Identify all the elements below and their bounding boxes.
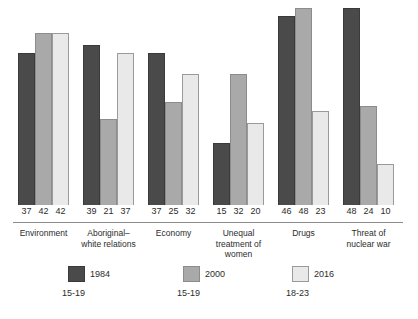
bar[interactable] xyxy=(278,16,295,205)
category-label-line: Drugs xyxy=(266,228,341,239)
bar-value-label: 21 xyxy=(100,206,117,217)
bar[interactable] xyxy=(213,143,230,205)
bar-value-label: 20 xyxy=(247,206,264,217)
category-label-line: Economy xyxy=(136,228,211,239)
bar[interactable] xyxy=(230,74,247,205)
chart-legend: 198415-19200015-19201618-23 xyxy=(0,266,418,310)
legend-year-label: 2000 xyxy=(205,269,225,280)
bar[interactable] xyxy=(377,164,394,205)
bar-group xyxy=(83,8,134,205)
bar-value-label: 25 xyxy=(165,206,182,217)
category-label-line: white relations xyxy=(71,239,146,250)
bar-value-label: 42 xyxy=(35,206,52,217)
bar-value-label: 37 xyxy=(18,206,35,217)
plot-area xyxy=(13,8,405,205)
value-label-group: 372532 xyxy=(148,206,199,217)
bar[interactable] xyxy=(35,33,52,205)
bar-value-label: 42 xyxy=(52,206,69,217)
bar-group xyxy=(18,8,69,205)
bar-value-label: 10 xyxy=(377,206,394,217)
legend-age-range-label: 15-19 xyxy=(177,288,200,299)
value-label-group: 482410 xyxy=(343,206,394,217)
category-label-line: Aboriginal– xyxy=(71,228,146,239)
bar-group xyxy=(278,8,329,205)
bar-value-label: 15 xyxy=(213,206,230,217)
bar[interactable] xyxy=(100,119,117,205)
legend-age-range-label: 18-23 xyxy=(286,288,309,299)
bar[interactable] xyxy=(343,8,360,205)
bar-value-label: 37 xyxy=(148,206,165,217)
bar-value-label: 46 xyxy=(278,206,295,217)
value-label-group: 153220 xyxy=(213,206,264,217)
value-label-row: 374242392137372532153220464823482410 xyxy=(13,206,405,220)
bar-value-label: 32 xyxy=(230,206,247,217)
bar[interactable] xyxy=(247,123,264,205)
category-label-line: Threat of xyxy=(331,228,406,239)
category-label: Environment xyxy=(6,228,81,239)
category-label-line: Environment xyxy=(6,228,81,239)
category-label-line: Unequal xyxy=(201,228,276,239)
value-label-group: 374242 xyxy=(18,206,69,217)
bar[interactable] xyxy=(360,106,377,205)
bar[interactable] xyxy=(52,33,69,205)
bar-value-label: 48 xyxy=(343,206,360,217)
category-label: Economy xyxy=(136,228,211,239)
category-label: Drugs xyxy=(266,228,341,239)
bar[interactable] xyxy=(182,74,199,205)
legend-swatch xyxy=(183,266,200,282)
bar[interactable] xyxy=(83,45,100,205)
bar-chart: 374242392137372532153220464823482410 Env… xyxy=(0,0,418,319)
bar-group xyxy=(213,8,264,205)
value-label-group: 392137 xyxy=(83,206,134,217)
category-label-line: women xyxy=(201,249,276,260)
category-label-line: nuclear war xyxy=(331,239,406,250)
x-axis-line xyxy=(13,222,403,223)
category-label: Unequaltreatment ofwomen xyxy=(201,228,276,260)
legend-swatch xyxy=(292,266,309,282)
category-label: Aboriginal–white relations xyxy=(71,228,146,249)
bar-value-label: 24 xyxy=(360,206,377,217)
legend-year-label: 2016 xyxy=(314,269,334,280)
bar[interactable] xyxy=(18,53,35,205)
category-label-row: EnvironmentAboriginal–white relationsEco… xyxy=(13,228,405,264)
bar-group xyxy=(343,8,394,205)
bar[interactable] xyxy=(165,102,182,205)
legend-year-label: 1984 xyxy=(90,269,110,280)
legend-swatch xyxy=(68,266,85,282)
value-label-group: 464823 xyxy=(278,206,329,217)
bar-value-label: 37 xyxy=(117,206,134,217)
category-label-line: treatment of xyxy=(201,239,276,250)
bar[interactable] xyxy=(117,53,134,205)
bar-value-label: 48 xyxy=(295,206,312,217)
bar-group xyxy=(148,8,199,205)
bar-value-label: 23 xyxy=(312,206,329,217)
bar[interactable] xyxy=(312,111,329,205)
category-label: Threat ofnuclear war xyxy=(331,228,406,249)
bar[interactable] xyxy=(148,53,165,205)
bar-value-label: 32 xyxy=(182,206,199,217)
bar-value-label: 39 xyxy=(83,206,100,217)
bar[interactable] xyxy=(295,8,312,205)
legend-age-range-label: 15-19 xyxy=(62,288,85,299)
